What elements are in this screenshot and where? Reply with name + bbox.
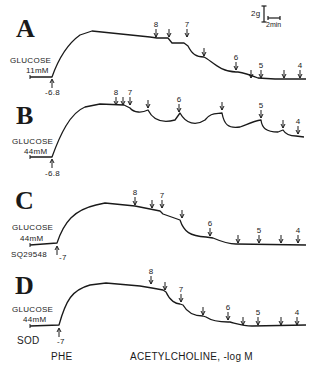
acetylcholine-dose-arrow-icon [220, 102, 224, 110]
panel-letter: A [16, 16, 35, 42]
dose-label: 8 [154, 20, 159, 29]
glucose-label: GLUCOSE [10, 56, 51, 65]
acetylcholine-dose-arrow-icon [279, 317, 283, 325]
acetylcholine-dose-arrow-icon: 7 [179, 285, 184, 302]
panel-letter: D [15, 273, 34, 299]
contraction-figure: 87654876548765487654 2g 2min A GLUCOSE 1… [0, 0, 316, 368]
dose-label: 8 [133, 188, 138, 197]
tension-trace [30, 203, 306, 245]
acetylcholine-dose-arrow-icon [241, 317, 245, 325]
dose-label: 7 [160, 191, 165, 200]
glucose-label: GLUCOSE [12, 305, 53, 314]
dose-label: 6 [208, 219, 213, 228]
scale-time-label: 2min [266, 21, 281, 29]
dose-label: 5 [256, 308, 261, 317]
glucose-concentration: 11mM [26, 66, 49, 75]
dose-label: 4 [298, 61, 303, 70]
acetylcholine-dose-arrow-icon [146, 100, 150, 108]
trace-panel-b: 87654 [30, 88, 304, 168]
acetylcholine-dose-arrow-icon: 6 [177, 95, 182, 112]
acetylcholine-dose-arrow-icon [282, 70, 286, 78]
dose-label: 7 [179, 285, 184, 294]
acetylcholine-dose-arrow-icon [167, 29, 171, 37]
scale-bar-icon [262, 6, 281, 22]
acetylcholine-dose-arrow-icon [150, 200, 154, 208]
dose-label: 6 [234, 53, 239, 62]
tension-traces: 87654876548765487654 [30, 20, 306, 337]
dose-label: 7 [185, 20, 190, 29]
tension-trace [30, 31, 306, 79]
acetylcholine-dose-arrow-icon [236, 235, 240, 243]
dose-label: 5 [259, 101, 264, 110]
phe-caption: PHE [51, 351, 72, 362]
tension-trace [30, 283, 306, 326]
acetylcholine-dose-arrow-icon [202, 48, 206, 56]
acetylcholine-dose-arrow-icon: 7 [160, 191, 165, 208]
acetylcholine-dose-arrow-icon: 8 [133, 188, 138, 205]
acetylcholine-dose-arrow-icon: 7 [128, 88, 133, 105]
dose-label: 4 [295, 308, 300, 317]
dose-label: 5 [257, 226, 262, 235]
phe-arrow-icon [50, 79, 54, 88]
phe-dose-label: -6.8 [45, 169, 60, 178]
acetylcholine-dose-arrow-icon: 8 [149, 267, 154, 284]
acetylcholine-dose-arrow-icon: 5 [256, 308, 261, 325]
dose-label: 4 [296, 117, 301, 126]
panel-letter: B [16, 103, 33, 129]
phe-dose-label: -6.8 [45, 88, 60, 97]
acetylcholine-dose-arrow-icon: 5 [259, 61, 264, 78]
dose-label: 5 [259, 61, 264, 70]
scale-force-label: 2g [251, 9, 261, 18]
dose-label: 6 [226, 303, 231, 312]
dose-label: 6 [177, 95, 182, 104]
tension-trace [30, 104, 304, 157]
glucose-concentration: 44mM [20, 234, 43, 243]
acetylcholine-dose-arrow-icon: 8 [114, 88, 119, 105]
acetylcholine-dose-arrow-icon: 5 [257, 226, 262, 243]
acetylcholine-dose-arrow-icon [281, 120, 285, 128]
glucose-concentration: 44mM [24, 147, 47, 156]
acetylcholine-dose-arrow-icon [163, 282, 167, 290]
acetylcholine-dose-arrow-icon [121, 97, 125, 105]
acetylcholine-dose-arrow-icon [180, 210, 184, 218]
glucose-label: GLUCOSE [12, 137, 53, 146]
panel-letter: C [15, 188, 34, 214]
dose-label: 8 [149, 267, 154, 276]
acetylcholine-dose-arrow-icon: 6 [234, 53, 239, 70]
treatment-label: SOD [17, 335, 40, 346]
acetylcholine-dose-arrow-icon: 7 [185, 20, 190, 37]
trace-panel-c: 87654 [30, 188, 306, 255]
dose-label: 7 [128, 88, 133, 97]
acetylcholine-dose-arrow-icon: 4 [295, 308, 300, 325]
phe-arrow-icon [50, 159, 54, 168]
glucose-concentration: 44mM [23, 315, 46, 324]
dose-label: 4 [296, 226, 301, 235]
acetylcholine-dose-arrow-icon: 4 [298, 61, 303, 78]
glucose-label: GLUCOSE [12, 223, 53, 232]
acetylcholine-dose-arrow-icon [201, 307, 205, 315]
acetylcholine-dose-arrow-icon: 6 [226, 303, 231, 320]
phe-dose-label: -7 [59, 253, 67, 262]
acetylcholine-dose-arrow-icon: 6 [208, 219, 213, 236]
phe-dose-label: -7 [57, 337, 65, 346]
trace-panel-d: 87654 [30, 267, 306, 337]
acetylcholine-dose-arrow-icon [249, 70, 253, 78]
phe-arrow-icon [57, 328, 61, 337]
treatment-label: SQ29548 [11, 250, 47, 259]
acetylcholine-dose-arrow-icon [279, 235, 283, 243]
acetylcholine-dose-arrow-icon: 4 [296, 226, 301, 243]
dose-label: 8 [114, 88, 119, 97]
acetylcholine-axis-caption: ACETYLCHOLINE, -log M [130, 351, 253, 362]
acetylcholine-dose-arrow-icon: 5 [259, 101, 264, 118]
acetylcholine-dose-arrow-icon: 4 [296, 117, 301, 134]
trace-panel-a: 87654 [30, 20, 306, 88]
acetylcholine-dose-arrow-icon: 8 [154, 20, 159, 37]
